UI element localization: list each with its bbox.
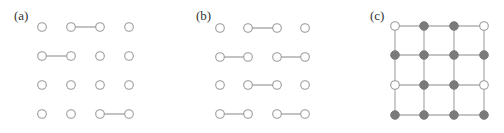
open-node <box>67 23 76 32</box>
panel-a-nodes <box>38 23 134 119</box>
open-node <box>273 81 282 90</box>
open-node <box>216 53 225 62</box>
panel-c-label: (c) <box>370 8 384 23</box>
panel-a-edges <box>42 27 129 114</box>
open-node <box>216 24 225 33</box>
filled-node <box>450 22 459 31</box>
filled-node <box>420 22 429 31</box>
open-node <box>96 81 105 90</box>
panel-b-label: (b) <box>196 8 211 23</box>
open-node <box>38 52 47 61</box>
open-node <box>244 81 253 90</box>
filled-node <box>391 111 400 120</box>
filled-node <box>480 111 489 120</box>
panel-c-nodes <box>391 22 489 120</box>
open-node <box>125 52 134 61</box>
filled-node <box>420 81 429 90</box>
open-node <box>67 81 76 90</box>
open-node <box>96 23 105 32</box>
open-node <box>125 110 134 119</box>
panel-a: (a) <box>14 8 133 118</box>
open-node <box>244 110 253 119</box>
panel-a-label: (a) <box>14 8 28 23</box>
open-node <box>480 22 489 31</box>
open-node <box>216 81 225 90</box>
filled-node <box>450 51 459 60</box>
filled-node <box>420 51 429 60</box>
open-node <box>96 52 105 61</box>
open-node <box>125 23 134 32</box>
open-node <box>301 110 310 119</box>
open-node <box>244 53 253 62</box>
open-node <box>38 81 47 90</box>
open-node <box>273 110 282 119</box>
filled-node <box>450 81 459 90</box>
open-node <box>216 110 225 119</box>
open-node <box>38 23 47 32</box>
open-node <box>125 81 134 90</box>
filled-node <box>450 111 459 120</box>
open-node <box>480 81 489 90</box>
open-node <box>67 52 76 61</box>
open-node <box>96 110 105 119</box>
open-node <box>391 22 400 31</box>
panel-b-nodes <box>216 24 310 119</box>
open-node <box>273 53 282 62</box>
open-node <box>244 24 253 33</box>
open-node <box>301 81 310 90</box>
diagram-canvas: (a) (b) (c) <box>0 0 504 133</box>
open-node <box>301 24 310 33</box>
open-node <box>38 110 47 119</box>
filled-node <box>480 51 489 60</box>
panel-c: (c) <box>370 8 488 119</box>
open-node <box>301 53 310 62</box>
open-node <box>273 24 282 33</box>
open-node <box>391 81 400 90</box>
filled-node <box>420 111 429 120</box>
panel-b: (b) <box>196 8 309 118</box>
panel-b-edges <box>220 28 305 114</box>
open-node <box>67 110 76 119</box>
panel-c-edges <box>395 26 484 115</box>
filled-node <box>391 51 400 60</box>
